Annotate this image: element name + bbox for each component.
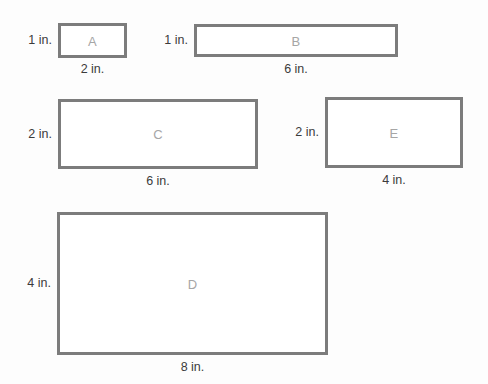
rectangle-b-height-label: 1 in.	[144, 34, 188, 47]
rectangle-c-letter: C	[61, 128, 255, 141]
rectangle-e-height-label: 2 in.	[275, 126, 319, 139]
rectangle-b: B	[194, 24, 398, 57]
rectangle-d-letter: D	[60, 277, 325, 290]
rectangle-e-letter: E	[328, 126, 460, 139]
rectangle-b-width-label: 6 in.	[194, 63, 398, 76]
rectangle-c-width-label: 6 in.	[58, 175, 258, 188]
rectangle-d-height-label: 4 in.	[7, 277, 51, 290]
rectangle-c-height-label: 2 in.	[8, 128, 52, 141]
rectangle-a: A	[58, 23, 127, 58]
rectangle-d: D	[57, 212, 328, 355]
rectangle-d-width-label: 8 in.	[57, 361, 328, 374]
rectangle-e: E	[325, 97, 463, 168]
rectangle-c: C	[58, 99, 258, 169]
rectangle-e-width-label: 4 in.	[325, 174, 463, 187]
rectangles-figure: A 1 in. 2 in. B 1 in. 6 in. C 2 in. 6 in…	[0, 0, 488, 384]
rectangle-b-letter: B	[197, 34, 395, 47]
rectangle-a-letter: A	[61, 34, 124, 47]
rectangle-a-height-label: 1 in.	[8, 34, 52, 47]
rectangle-a-width-label: 2 in.	[58, 63, 127, 76]
